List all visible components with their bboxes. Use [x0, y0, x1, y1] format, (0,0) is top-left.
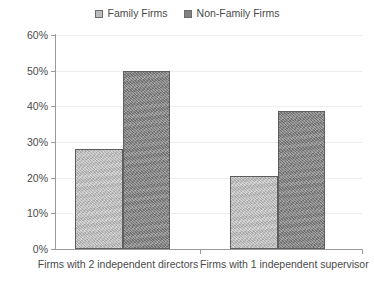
bar-chart: Family Firms Non-Family Firms 60% 50% 40… [0, 0, 374, 288]
bar-family-firms-group-1 [75, 149, 123, 249]
x-axis-tick-label: Firms with 1 independent supervisor [200, 258, 364, 271]
category-separator-tick [200, 249, 201, 254]
x-axis-labels: Firms with 2 independent directors Firms… [0, 258, 374, 278]
bar-series-container [0, 0, 374, 288]
bar-family-firms-group-2 [230, 176, 278, 249]
bar-non-family-firms-group-1 [123, 71, 171, 249]
category-separator-tick [362, 249, 363, 254]
x-axis-tick-label: Firms with 2 independent directors [36, 258, 200, 271]
bar-non-family-firms-group-2 [278, 111, 326, 249]
